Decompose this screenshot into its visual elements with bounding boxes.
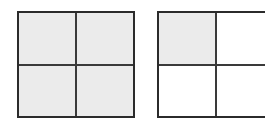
figure-canvas [0,0,265,125]
left-quadrant-bottom-right [76,65,133,117]
left-quadrant-grid [19,13,133,116]
right-quadrant-bottom-right [216,65,265,117]
right-quadrant-grid [159,13,265,116]
right-quadrant-bottom-left [159,65,216,117]
left-quadrant-top-right [76,13,133,65]
left-quadrant-bottom-left [19,65,76,117]
right-area-model [157,11,265,118]
right-quadrant-top-left [159,13,216,65]
right-quadrant-top-right [216,13,265,65]
left-area-model [17,11,135,118]
left-quadrant-top-left [19,13,76,65]
